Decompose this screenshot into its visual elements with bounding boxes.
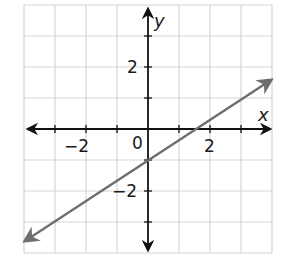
- origin-label: 0: [132, 133, 143, 153]
- y-tick-label-neg2: −2: [112, 181, 137, 201]
- coordinate-plane: y x 0 −2 2 2 −2: [0, 0, 286, 261]
- x-tick-label-neg2: −2: [64, 136, 89, 156]
- x-axis-label: x: [257, 104, 269, 125]
- y-axis-label: y: [153, 10, 165, 31]
- y-tick-label-pos2: 2: [127, 57, 138, 77]
- x-tick-label-pos2: 2: [204, 136, 215, 156]
